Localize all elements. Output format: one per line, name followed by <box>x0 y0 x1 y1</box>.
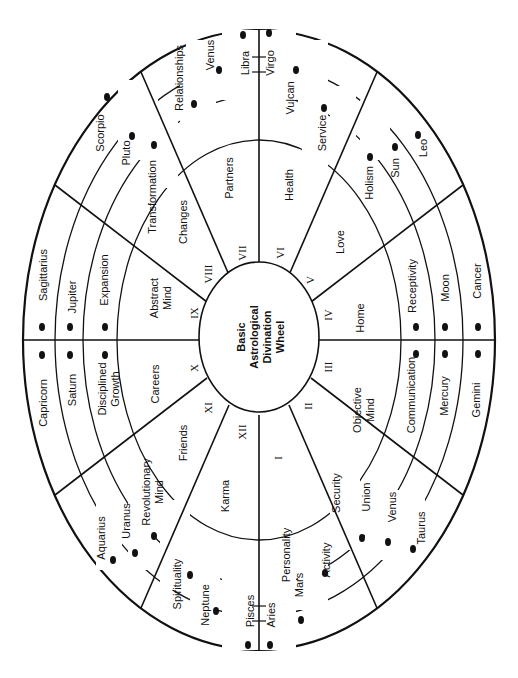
astrological-wheel: Basic Astrological Divination Wheel I II… <box>0 0 518 678</box>
keyword-receptivity: Receptivity <box>406 259 418 313</box>
sign-aquarius: Aquarius <box>95 516 107 560</box>
numeral-IV: IV <box>322 309 334 321</box>
numeral-II: II <box>302 402 314 410</box>
planet-moon: Moon <box>439 274 451 302</box>
planet-vulcan: Vulcan <box>284 81 296 114</box>
keyword-communication: Communication <box>405 357 417 433</box>
planet-saturn: Saturn <box>66 374 78 406</box>
title-line-1: Basic <box>235 322 247 351</box>
planet-jupiter: Jupiter <box>66 280 78 313</box>
keyword-disciplined-2: Growth <box>109 371 121 406</box>
numeral-VIII: VIII <box>202 264 214 283</box>
theme-partners: Partners <box>223 157 235 199</box>
sign-gemini: Gemini <box>470 383 482 418</box>
sign-aries: Aries <box>265 602 277 628</box>
keyword-disciplined-1: Disciplined <box>96 362 108 415</box>
sign-leo: Leo <box>417 139 429 157</box>
theme-changes: Changes <box>177 199 189 244</box>
sign-pisces: Pisces <box>244 594 256 627</box>
theme-home: Home <box>354 303 366 332</box>
numeral-V: V <box>304 276 316 284</box>
theme-abstract-1: Abstract <box>148 278 160 318</box>
numeral-III: III <box>322 361 334 372</box>
sign-taurus: Taurus <box>415 511 427 545</box>
numeral-I: I <box>272 456 284 460</box>
sign-capricorn: Capricorn <box>37 379 49 427</box>
planet-pluto: Pluto <box>120 140 132 165</box>
keyword-holism: Holism <box>363 166 375 200</box>
numeral-VII: VII <box>236 245 248 261</box>
planet-sun: Sun <box>389 158 401 178</box>
keyword-transformation: Transformation <box>146 160 158 234</box>
numeral-XII: XII <box>236 424 248 440</box>
sign-cancer: Cancer <box>471 263 483 299</box>
planet-mercury: Mercury <box>438 376 450 416</box>
keyword-expansion: Expansion <box>98 254 110 305</box>
sign-virgo: Virgo <box>264 50 276 75</box>
planet-venus-libra: Venus <box>204 39 216 70</box>
theme-objective-1: Objective <box>351 387 363 433</box>
sign-sagittarius: Sagittarius <box>37 249 49 301</box>
keyword-revolutionary-1: Revolutionary <box>140 458 152 526</box>
title-line-2: Astrological <box>248 305 260 369</box>
theme-love: Love <box>334 230 346 254</box>
keyword-spirituality: Spirituality <box>171 558 183 609</box>
numeral-VI: VI <box>274 247 286 259</box>
theme-friends: Friends <box>177 424 189 461</box>
keyword-union: Union <box>360 483 372 512</box>
keyword-relationships: Relationships <box>173 44 185 111</box>
theme-health: Health <box>283 169 295 201</box>
numeral-IX: IX <box>188 307 200 319</box>
title-line-4: Wheel <box>274 321 286 353</box>
planet-neptune: Neptune <box>199 584 211 626</box>
theme-karma: Karma <box>219 479 231 512</box>
theme-careers: Careers <box>149 364 161 404</box>
keyword-service: Service <box>316 115 328 152</box>
theme-security: Security <box>330 473 342 513</box>
numeral-XI: XI <box>202 402 214 414</box>
theme-abstract-2: Mind <box>161 286 173 310</box>
theme-objective-2: Mind <box>364 398 376 422</box>
planet-mars: Mars <box>293 572 305 597</box>
theme-personality: Personality <box>280 527 292 582</box>
sign-scorpio: Scorpio <box>94 114 106 151</box>
keyword-revolutionary-2: Mind <box>153 480 165 504</box>
numeral-X: X <box>188 364 200 372</box>
planet-venus-taurus: Venus <box>386 491 398 522</box>
sign-libra: Libra <box>239 50 251 75</box>
planet-uranus: Uranus <box>120 503 132 539</box>
title-line-3: Divination <box>261 310 273 363</box>
